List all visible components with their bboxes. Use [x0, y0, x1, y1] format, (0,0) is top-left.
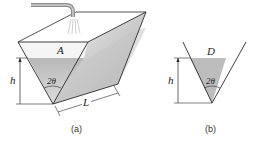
- arrow-up-icon: [18, 58, 21, 62]
- water-spray-icon: [68, 19, 80, 34]
- label-height-a: h: [10, 74, 16, 86]
- trough-diagram: A h 2θ L (a) D h 2θ (b): [0, 0, 258, 150]
- panel-a: A h 2θ L (a): [10, 5, 146, 134]
- length-tick-left: [55, 106, 60, 116]
- label-area: A: [56, 44, 64, 56]
- label-angle-a: 2θ: [47, 76, 57, 86]
- caption-a: (a): [71, 124, 82, 134]
- label-length: L: [82, 96, 89, 108]
- arrow-up-icon: [176, 58, 179, 62]
- caption-b: (b): [205, 124, 216, 134]
- label-width: D: [206, 45, 215, 57]
- front-face-dry: [18, 42, 88, 58]
- label-height-b: h: [168, 74, 174, 86]
- length-tick-right: [114, 86, 120, 96]
- panel-b: D h 2θ (b): [168, 42, 246, 134]
- faucet-icon: [31, 5, 73, 17]
- label-angle-b: 2θ: [206, 76, 216, 86]
- trough-left-top-edge: [18, 12, 76, 42]
